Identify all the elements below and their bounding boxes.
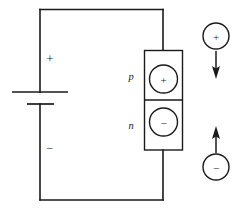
battery-symbol: [12, 92, 68, 104]
p-region-label: p: [127, 71, 133, 82]
n-region: n −: [128, 108, 177, 136]
figure-canvas: + − p + n − + −: [0, 0, 242, 210]
n-carrier-sign: −: [160, 117, 166, 129]
free-positive-charge: +: [203, 23, 229, 79]
circuit-diagram: + − p + n − + −: [0, 0, 242, 210]
p-carrier-sign: +: [160, 74, 166, 86]
battery-negative-sign: −: [47, 141, 54, 155]
n-region-label: n: [128, 120, 133, 131]
free-negative-charge: −: [203, 126, 229, 180]
p-region: p +: [127, 65, 177, 93]
battery-positive-sign: +: [47, 52, 54, 66]
positive-charge-sign: +: [213, 31, 219, 43]
negative-charge-sign: −: [213, 162, 219, 174]
